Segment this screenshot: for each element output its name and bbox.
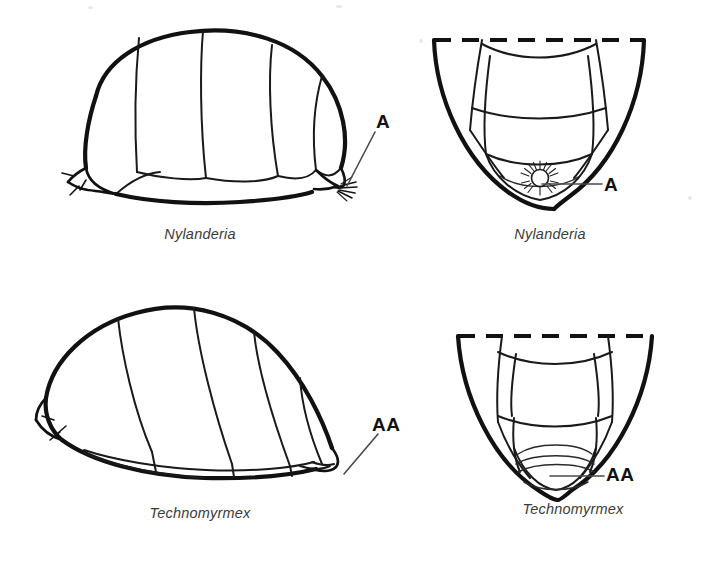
label-acidopore-ventral: A: [604, 174, 618, 196]
label-anal-aperture-lateral: AA: [372, 414, 400, 436]
caption-nylanderia-lateral: Nylanderia: [120, 226, 280, 242]
leader-line-aa: [344, 434, 378, 474]
label-acidopore-lateral: A: [376, 111, 390, 133]
figure-plate: A Nylanderia: [0, 0, 702, 567]
scan-speck: [688, 196, 692, 200]
caption-technomyrmex-lateral: Technomyrmex: [105, 505, 295, 521]
caption-nylanderia-ventral: Nylanderia: [470, 226, 630, 242]
pointer-nylanderia-lateral: [330, 110, 420, 210]
caption-technomyrmex-ventral: Technomyrmex: [478, 501, 668, 517]
label-anal-aperture-ventral: AA: [606, 464, 634, 486]
leader-line-a: [347, 132, 375, 186]
